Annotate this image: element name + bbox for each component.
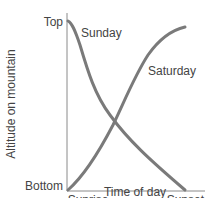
chart: Top Bottom Sunrise Sunset Sunday Saturda… — [0, 0, 211, 198]
y-tick-top: Top — [44, 15, 64, 29]
series-line-saturday — [68, 27, 185, 190]
x-tick-sunset: Sunset — [167, 193, 205, 198]
series-label-saturday: Saturday — [148, 64, 196, 78]
x-tick-sunrise: Sunrise — [68, 193, 109, 198]
y-tick-bottom: Bottom — [25, 179, 63, 193]
y-axis-title: Altitude on mountain — [4, 49, 18, 158]
series-label-sunday: Sunday — [81, 26, 122, 40]
x-axis-title: Time of day — [104, 185, 166, 198]
series-line-sunday — [68, 21, 185, 190]
